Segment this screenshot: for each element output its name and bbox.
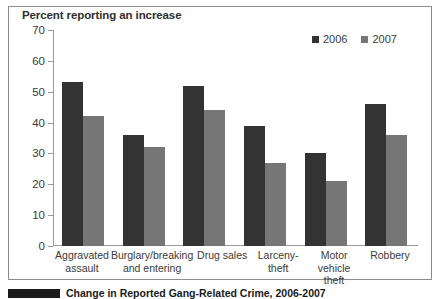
y-tick-label: 0	[39, 240, 45, 252]
bar-group	[357, 30, 418, 246]
x-category-label: Aggravated assault	[54, 249, 110, 287]
y-tick-mark	[48, 92, 53, 93]
caption-marker-icon	[8, 289, 60, 298]
bar-group	[175, 30, 236, 246]
y-tick-label: 50	[32, 86, 45, 98]
bar-2006[interactable]	[244, 126, 265, 246]
y-tick-mark	[48, 215, 53, 216]
y-tick-label: 40	[32, 117, 45, 129]
x-category-label: Motor vehicle theft	[306, 249, 362, 287]
bar-2007[interactable]	[386, 135, 407, 246]
bar-2006[interactable]	[183, 86, 204, 246]
bar-group	[236, 30, 297, 246]
bar-group	[115, 30, 176, 246]
y-tick-mark	[48, 61, 53, 62]
y-tick-label: 30	[32, 147, 45, 159]
x-axis-category-labels: Aggravated assaultBurglary/breaking and …	[54, 249, 418, 287]
y-tick-mark	[48, 246, 53, 247]
caption-text: Change in Reported Gang-Related Crime, 2…	[66, 287, 326, 299]
bar-2006[interactable]	[123, 135, 144, 246]
bar-2007[interactable]	[144, 147, 165, 246]
bar-2007[interactable]	[265, 163, 286, 246]
bar-2006[interactable]	[62, 82, 83, 246]
y-tick-label: 10	[32, 209, 45, 221]
bar-groups	[54, 30, 418, 246]
bar-2007[interactable]	[83, 116, 104, 246]
y-tick-mark	[48, 30, 53, 31]
bar-2007[interactable]	[326, 181, 347, 246]
y-tick-label: 60	[32, 55, 45, 67]
x-category-label: Drug sales	[194, 249, 250, 287]
x-category-label: Robbery	[362, 249, 418, 287]
y-tick-label: 20	[32, 178, 45, 190]
bar-group	[54, 30, 115, 246]
bar-2007[interactable]	[204, 110, 225, 246]
plot-area: 010203040506070	[53, 30, 418, 246]
bar-2006[interactable]	[305, 153, 326, 246]
y-tick-mark	[48, 184, 53, 185]
figure-caption: Change in Reported Gang-Related Crime, 2…	[8, 287, 444, 299]
bar-2006[interactable]	[365, 104, 386, 246]
bar-group	[297, 30, 358, 246]
chart-title: Percent reporting an increase	[22, 9, 181, 21]
x-category-label: Larceny-theft	[250, 249, 306, 287]
x-category-label: Burglary/breaking and entering	[110, 249, 194, 287]
y-tick-mark	[48, 123, 53, 124]
y-tick-label: 70	[32, 24, 45, 36]
y-tick-mark	[48, 153, 53, 154]
